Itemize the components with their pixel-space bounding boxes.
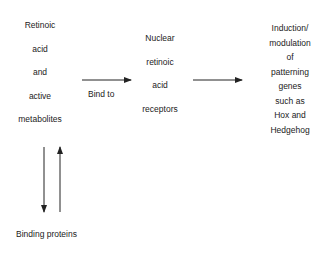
arrows-layer [0,0,329,253]
